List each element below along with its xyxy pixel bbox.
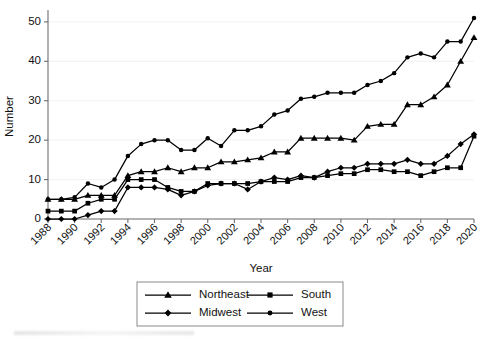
marker-triangle: [444, 82, 451, 88]
marker-diamond: [85, 212, 91, 218]
marker-square: [378, 167, 383, 172]
marker-circle: [192, 148, 196, 152]
marker-square: [86, 201, 91, 206]
x-tick-label-group: 2008: [294, 221, 320, 247]
x-tick-label-group: 1992: [81, 221, 107, 247]
x-tick-label: 2004: [241, 221, 267, 247]
legend-label: West: [301, 306, 328, 318]
series-line: [48, 136, 474, 211]
x-tick-label: 2006: [267, 221, 293, 247]
marker-circle: [299, 97, 303, 101]
marker-circle: [112, 177, 116, 181]
x-tick-label: 1998: [161, 221, 187, 247]
marker-circle: [259, 124, 263, 128]
x-tick-label-group: 1998: [161, 221, 187, 247]
marker-circle: [206, 136, 210, 140]
marker-circle: [405, 55, 409, 59]
x-tick-label-group: 2020: [454, 221, 480, 247]
marker-circle: [72, 195, 76, 199]
x-tick-label-group: 2018: [427, 221, 453, 247]
y-tick-label: 30: [28, 94, 41, 106]
series-south: [46, 134, 477, 214]
marker-triangle: [471, 34, 478, 40]
x-tick-label: 2012: [347, 221, 373, 247]
x-tick-label-group: 1988: [28, 221, 54, 247]
marker-circle: [365, 83, 369, 87]
y-tick-label: 50: [28, 15, 41, 27]
marker-square: [59, 209, 64, 214]
series-line: [48, 38, 474, 200]
marker-square: [267, 292, 272, 297]
series-west: [46, 16, 476, 202]
marker-diamond: [98, 208, 104, 214]
marker-circle: [86, 181, 90, 185]
y-tick-label: 10: [28, 173, 41, 185]
marker-circle: [245, 128, 249, 132]
marker-diamond: [431, 161, 437, 167]
x-tick-label-group: 1996: [134, 221, 160, 247]
marker-square: [99, 197, 104, 202]
marker-circle: [419, 51, 423, 55]
marker-circle: [152, 138, 156, 142]
x-tick-label-group: 2012: [347, 221, 373, 247]
x-tick-label-group: 2002: [214, 221, 240, 247]
series-line: [48, 134, 474, 219]
x-tick-label: 2016: [400, 221, 426, 247]
marker-diamond: [111, 208, 117, 214]
marker-square: [365, 167, 370, 172]
y-tick-label: 0: [35, 212, 41, 224]
marker-diamond: [245, 186, 251, 192]
marker-circle: [166, 138, 170, 142]
x-tick-label: 1990: [54, 221, 80, 247]
marker-square: [405, 169, 410, 174]
legend-label: Midwest: [199, 306, 242, 318]
x-tick-label-group: 1994: [107, 221, 133, 247]
marker-square: [445, 165, 450, 170]
x-tick-label-group: 2006: [267, 221, 293, 247]
x-tick-label: 1988: [28, 221, 54, 247]
y-tick-label: 40: [28, 54, 41, 66]
marker-diamond: [378, 161, 384, 167]
marker-circle: [432, 55, 436, 59]
marker-diamond: [338, 165, 344, 171]
series-midwest: [45, 131, 477, 222]
y-tick-label: 20: [28, 133, 41, 145]
marker-circle: [325, 91, 329, 95]
scan-artifact: [14, 331, 194, 335]
x-tick-label-group: 2016: [400, 221, 426, 247]
marker-diamond: [45, 216, 51, 222]
marker-circle: [126, 154, 130, 158]
marker-diamond: [138, 184, 144, 190]
marker-circle: [352, 91, 356, 95]
marker-square: [339, 171, 344, 176]
x-tick-label: 2018: [427, 221, 453, 247]
marker-circle: [268, 311, 273, 316]
marker-diamond: [404, 157, 410, 163]
x-tick-label: 2010: [320, 221, 346, 247]
x-tick-label: 1994: [107, 221, 133, 247]
marker-circle: [285, 108, 289, 112]
marker-diamond: [72, 216, 78, 222]
marker-circle: [219, 144, 223, 148]
series-northeast: [45, 34, 478, 201]
legend-label: Northeast: [199, 288, 250, 300]
x-tick-label-group: 2014: [374, 221, 400, 247]
marker-diamond: [391, 161, 397, 167]
marker-diamond: [418, 161, 424, 167]
marker-square: [458, 165, 463, 170]
marker-circle: [179, 148, 183, 152]
marker-square: [139, 177, 144, 182]
marker-circle: [139, 142, 143, 146]
marker-circle: [232, 128, 236, 132]
x-tick-label: 2014: [374, 221, 400, 247]
x-tick-label-group: 2004: [241, 221, 267, 247]
x-tick-label-group: 2000: [187, 221, 213, 247]
marker-circle: [379, 79, 383, 83]
x-tick-label-group: 2010: [320, 221, 346, 247]
marker-circle: [445, 39, 449, 43]
marker-circle: [392, 71, 396, 75]
marker-square: [432, 169, 437, 174]
marker-triangle: [164, 164, 171, 170]
marker-circle: [59, 197, 63, 201]
marker-square: [245, 181, 250, 186]
